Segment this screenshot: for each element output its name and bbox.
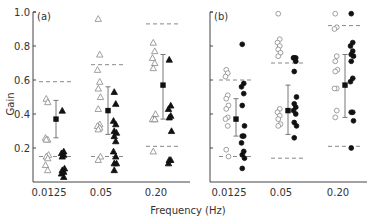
- filled-circle-marker: [241, 134, 246, 139]
- x-axis-label: Frequency (Hz): [150, 205, 226, 216]
- filled-circle-marker: [292, 135, 297, 140]
- filled-circle-marker: [348, 79, 353, 84]
- filled-circle-marker: [294, 95, 299, 100]
- x-tick-label: 0.20: [327, 187, 349, 198]
- open-circle-marker: [223, 74, 228, 79]
- filled-circle-marker: [348, 44, 353, 49]
- y-tick-label: 0.6: [14, 75, 30, 86]
- panel-b: 0.01250.050.20(b): [210, 11, 367, 198]
- x-tick-label: 0.05: [90, 187, 112, 198]
- open-triangle-marker: [94, 67, 100, 73]
- filled-triangle-marker: [168, 128, 174, 134]
- filled-circle-marker: [349, 110, 354, 115]
- mean-square-marker: [233, 116, 238, 121]
- filled-circle-marker: [240, 42, 245, 47]
- filled-triangle-marker: [59, 107, 65, 113]
- filled-circle-marker: [292, 69, 297, 74]
- filled-triangle-marker: [113, 101, 119, 107]
- filled-circle-marker: [239, 141, 244, 146]
- open-circle-marker: [276, 124, 281, 129]
- open-circle-marker: [224, 107, 229, 112]
- panel-a: 0.20.40.60.81.00.01250.050.20(a): [14, 7, 190, 199]
- open-triangle-marker: [97, 79, 103, 85]
- open-circle-marker: [332, 27, 337, 32]
- open-circle-marker: [333, 69, 338, 74]
- mean-square-marker: [342, 82, 347, 87]
- filled-circle-marker: [242, 156, 247, 161]
- open-triangle-marker: [152, 48, 158, 54]
- filled-circle-marker: [242, 124, 247, 129]
- x-tick-label: 0.05: [270, 187, 292, 198]
- filled-circle-marker: [240, 166, 245, 171]
- open-triangle-marker: [95, 85, 101, 91]
- open-circle-marker: [333, 115, 338, 120]
- filled-circle-marker: [349, 146, 354, 151]
- open-circle-marker: [224, 96, 229, 101]
- x-tick-label: 0.0125: [32, 187, 67, 198]
- open-circle-marker: [333, 59, 338, 64]
- open-circle-marker: [276, 117, 281, 122]
- filled-circle-marker: [241, 91, 246, 96]
- y-tick-label: 1.0: [14, 7, 30, 18]
- open-triangle-marker: [150, 39, 156, 45]
- y-tick-label: 0.2: [14, 143, 30, 154]
- y-axis-label: Gain: [5, 93, 16, 116]
- filled-circle-marker: [349, 59, 354, 64]
- open-circle-marker: [334, 54, 339, 59]
- y-tick-label: 0.4: [14, 109, 30, 120]
- x-tick-label: 0.20: [145, 187, 167, 198]
- open-circle-marker: [224, 147, 229, 152]
- open-circle-marker: [226, 154, 231, 159]
- open-triangle-marker: [97, 51, 103, 57]
- x-tick-label: 0.0125: [212, 187, 247, 198]
- filled-circle-marker: [239, 84, 244, 89]
- open-circle-marker: [332, 86, 337, 91]
- filled-circle-marker: [351, 118, 356, 123]
- mean-square-marker: [285, 108, 290, 113]
- open-circle-marker: [225, 124, 230, 129]
- open-circle-marker: [276, 11, 281, 16]
- filled-circle-marker: [293, 112, 298, 117]
- filled-triangle-marker: [166, 56, 172, 62]
- mean-square-marker: [160, 82, 165, 87]
- open-circle-marker: [333, 11, 338, 16]
- filled-circle-marker: [349, 11, 354, 16]
- mean-square-marker: [53, 116, 58, 121]
- mean-square-marker: [105, 108, 110, 113]
- filled-triangle-marker: [111, 89, 117, 95]
- panel-label: (b): [214, 11, 228, 22]
- filled-triangle-marker: [111, 167, 117, 173]
- open-circle-marker: [276, 54, 281, 59]
- filled-circle-marker: [351, 54, 356, 59]
- open-circle-marker: [334, 108, 339, 113]
- filled-circle-marker: [294, 124, 299, 129]
- filled-circle-marker: [293, 59, 298, 64]
- open-triangle-marker: [97, 94, 103, 100]
- open-circle-marker: [223, 117, 228, 122]
- open-triangle-marker: [150, 148, 156, 154]
- open-triangle-marker: [95, 16, 101, 22]
- open-triangle-marker: [95, 106, 101, 112]
- gain-vs-frequency-chart: 0.20.40.60.81.00.01250.050.20(a) 0.01250…: [0, 0, 376, 221]
- y-tick-label: 0.8: [14, 41, 30, 52]
- filled-circle-marker: [240, 103, 245, 108]
- panel-label: (a): [37, 11, 51, 22]
